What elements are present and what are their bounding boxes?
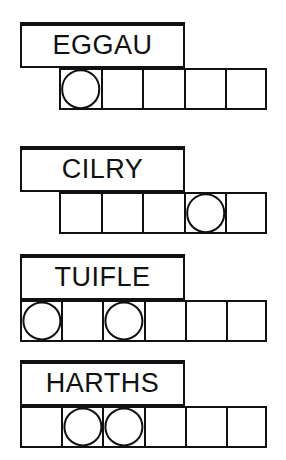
answer-cell[interactable] bbox=[20, 406, 61, 448]
answer-cell[interactable] bbox=[184, 68, 226, 110]
answer-cell[interactable] bbox=[102, 300, 143, 342]
answer-cell[interactable] bbox=[61, 300, 102, 342]
scrambled-word-text: CILRY bbox=[62, 156, 144, 183]
answer-cell[interactable] bbox=[59, 68, 101, 110]
circle-marker-icon bbox=[61, 69, 101, 109]
answer-cell[interactable] bbox=[20, 300, 61, 342]
answer-cell[interactable] bbox=[226, 406, 267, 448]
circle-marker-icon bbox=[186, 193, 226, 233]
circle-marker-icon bbox=[104, 301, 143, 340]
answer-cell[interactable] bbox=[101, 192, 143, 234]
answer-cell-row bbox=[59, 192, 267, 234]
answer-cell[interactable] bbox=[102, 406, 143, 448]
scrambled-word-text: EGGAU bbox=[52, 32, 152, 59]
circle-marker-icon bbox=[22, 301, 61, 340]
word-banner: HARTHS bbox=[20, 360, 185, 406]
answer-cell[interactable] bbox=[144, 300, 185, 342]
circle-marker-icon bbox=[104, 407, 143, 446]
word-banner: TUIFLE bbox=[20, 254, 185, 300]
scrambled-word-text: HARTHS bbox=[46, 370, 160, 397]
answer-cell[interactable] bbox=[142, 192, 184, 234]
answer-cell[interactable] bbox=[61, 406, 102, 448]
answer-cell[interactable] bbox=[184, 192, 226, 234]
answer-cell[interactable] bbox=[185, 406, 226, 448]
answer-cell[interactable] bbox=[144, 406, 185, 448]
answer-cell[interactable] bbox=[185, 300, 226, 342]
word-banner: EGGAU bbox=[20, 22, 185, 68]
answer-cell[interactable] bbox=[59, 192, 101, 234]
answer-cell[interactable] bbox=[225, 192, 267, 234]
answer-cell[interactable] bbox=[225, 68, 267, 110]
word-banner: CILRY bbox=[20, 146, 185, 192]
puzzle-sheet: EGGAUCILRYTUIFLEHARTHS bbox=[0, 0, 286, 460]
answer-cell-row bbox=[20, 406, 267, 448]
circle-marker-icon bbox=[63, 407, 102, 446]
answer-cell[interactable] bbox=[101, 68, 143, 110]
scrambled-word-text: TUIFLE bbox=[54, 264, 150, 291]
answer-cell[interactable] bbox=[142, 68, 184, 110]
answer-cell[interactable] bbox=[226, 300, 267, 342]
answer-cell-row bbox=[59, 68, 267, 110]
answer-cell-row bbox=[20, 300, 267, 342]
